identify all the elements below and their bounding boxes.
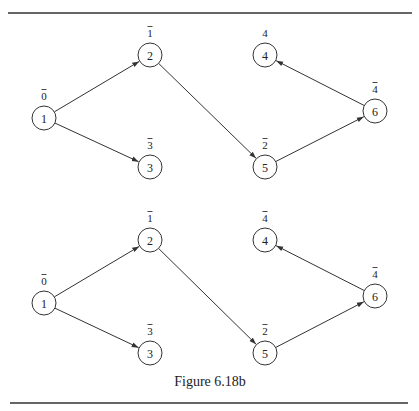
- node-4: 44: [253, 212, 277, 253]
- node-id: 2: [147, 234, 153, 248]
- node-3: 33: [138, 325, 162, 366]
- edge-1-to-3: [55, 123, 139, 162]
- figure-caption: Figure 6.18b: [174, 374, 246, 389]
- node-label: 1: [147, 27, 153, 39]
- node-id: 6: [372, 290, 378, 304]
- node-label: 4: [262, 212, 268, 224]
- node-id: 4: [262, 234, 268, 248]
- edge-2-to-5: [159, 63, 256, 158]
- node-label: 1: [147, 212, 153, 224]
- node-label: 0: [41, 90, 47, 102]
- node-5: 52: [253, 139, 277, 180]
- node-label: 3: [147, 325, 153, 337]
- node-id: 1: [41, 112, 47, 126]
- node-label: 4: [262, 27, 268, 39]
- node-label: 0: [41, 275, 47, 287]
- node-1: 10: [32, 90, 56, 131]
- node-1: 10: [32, 275, 56, 316]
- node-4: 44: [253, 27, 277, 67]
- node-label: 2: [262, 139, 268, 151]
- edge-1-to-2: [54, 246, 139, 296]
- node-2: 21: [138, 27, 162, 68]
- node-2: 21: [138, 212, 162, 253]
- node-id: 3: [147, 347, 153, 361]
- node-3: 33: [138, 139, 162, 180]
- node-id: 2: [147, 49, 153, 63]
- edge-6-to-4: [276, 246, 364, 291]
- node-id: 5: [262, 161, 268, 175]
- edge-2-to-5: [159, 248, 257, 344]
- node-5: 52: [253, 325, 277, 366]
- node-label: 4: [372, 83, 378, 95]
- node-label: 4: [372, 268, 378, 280]
- node-label: 3: [147, 139, 153, 151]
- edge-6-to-4: [276, 61, 364, 106]
- edge-1-to-3: [55, 308, 139, 348]
- node-label: 2: [262, 325, 268, 337]
- figure-diagram: 102133445264102133445264 Figure 6.18b: [0, 0, 419, 411]
- edge-5-to-6: [276, 302, 364, 348]
- bottom-graph: 102133445264: [32, 212, 387, 366]
- node-id: 5: [262, 347, 268, 361]
- node-6: 64: [363, 268, 387, 309]
- top-graph: 102133445264: [32, 27, 387, 180]
- node-id: 6: [372, 105, 378, 119]
- edge-5-to-6: [276, 117, 364, 162]
- edge-1-to-2: [54, 61, 139, 111]
- node-id: 3: [147, 161, 153, 175]
- node-id: 1: [41, 297, 47, 311]
- node-id: 4: [262, 49, 268, 63]
- node-6: 64: [363, 83, 387, 124]
